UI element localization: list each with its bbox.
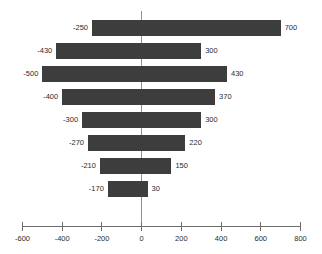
bar bbox=[82, 112, 201, 128]
x-axis-tick-label: 600 bbox=[241, 234, 281, 243]
x-axis-tick-label: 800 bbox=[281, 234, 321, 243]
x-axis-tick bbox=[181, 222, 182, 231]
x-axis-tick bbox=[62, 222, 63, 231]
bar-low-label: -250 bbox=[48, 20, 88, 36]
tornado-chart: -250700-430300-500430-400370-300300-2702… bbox=[0, 0, 322, 254]
plot-area: -250700-430300-500430-400370-300300-2702… bbox=[0, 0, 322, 254]
x-axis-tick-label: -600 bbox=[3, 234, 43, 243]
bar-high-label: 430 bbox=[231, 66, 271, 82]
bar bbox=[62, 89, 215, 105]
x-axis-tick-label: 0 bbox=[122, 234, 162, 243]
x-axis-tick-label: -400 bbox=[42, 234, 82, 243]
bar-high-label: 150 bbox=[175, 158, 215, 174]
bar-high-label: 220 bbox=[189, 135, 229, 151]
bar-high-label: 300 bbox=[205, 43, 245, 59]
x-axis-tick-label: -200 bbox=[82, 234, 122, 243]
x-axis-tick bbox=[300, 222, 301, 231]
bar-low-label: -300 bbox=[38, 112, 78, 128]
bar bbox=[42, 66, 227, 82]
bar-low-label: -500 bbox=[0, 66, 38, 82]
x-axis-tick bbox=[22, 222, 23, 231]
x-axis-tick-label: 400 bbox=[201, 234, 241, 243]
bar-low-label: -210 bbox=[56, 158, 96, 174]
x-axis-tick bbox=[260, 222, 261, 231]
bar-high-label: 370 bbox=[219, 89, 259, 105]
x-axis-tick bbox=[221, 222, 222, 231]
x-axis-tick bbox=[141, 222, 142, 231]
bar bbox=[108, 181, 148, 197]
bar-low-label: -430 bbox=[12, 43, 52, 59]
bar bbox=[88, 135, 185, 151]
x-axis-tick-label: 200 bbox=[161, 234, 201, 243]
bar bbox=[56, 43, 201, 59]
bar-high-label: 700 bbox=[285, 20, 322, 36]
bar-low-label: -270 bbox=[44, 135, 84, 151]
bar bbox=[92, 20, 281, 36]
bar-high-label: 300 bbox=[205, 112, 245, 128]
x-axis-line bbox=[23, 226, 301, 227]
bar-low-label: -400 bbox=[18, 89, 58, 105]
bar bbox=[100, 158, 171, 174]
bar-low-label: -170 bbox=[64, 181, 104, 197]
x-axis-tick bbox=[101, 222, 102, 231]
bar-high-label: 30 bbox=[152, 181, 192, 197]
